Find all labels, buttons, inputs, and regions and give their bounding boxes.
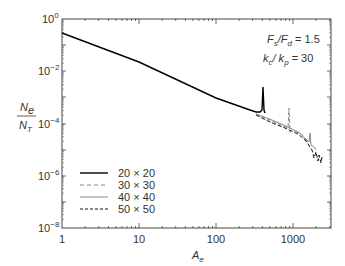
annotation-rate-ratio: kc/ kp = 30: [263, 52, 313, 67]
x-axis-label: Ae: [191, 249, 204, 264]
svg-text:NT: NT: [19, 119, 33, 134]
annotation-force-ratio: Fs/Fd = 1.5: [267, 33, 320, 48]
y-tick-label: 10−4: [38, 116, 60, 130]
y-tick-label: 100: [42, 11, 59, 25]
legend-label: 20 × 20: [118, 167, 155, 179]
x-tick-label: 10: [133, 233, 145, 245]
legend: 20 × 20 30 × 30 40 × 40 50 × 50: [80, 167, 155, 215]
y-axis-label: Ne NT: [17, 101, 36, 134]
y-tick-label: 10−6: [38, 168, 60, 182]
series-40x40: [256, 114, 316, 150]
y-tick-label: 10−8: [38, 220, 60, 234]
legend-label: 30 × 30: [118, 179, 155, 191]
y-tick-label: 10−2: [38, 63, 60, 77]
chart: 1 10 100 1000 100 10−2 10−4 10−6 10−8 Ne…: [0, 0, 345, 266]
series-50x50: [256, 115, 322, 163]
svg-text:Ne: Ne: [20, 101, 34, 116]
y-tick-labels: 100 10−2 10−4 10−6 10−8: [38, 11, 60, 234]
x-tick-label: 1000: [281, 233, 305, 245]
series-20x20: [62, 33, 265, 113]
legend-label: 50 × 50: [118, 203, 155, 215]
x-tick-label: 100: [207, 233, 225, 245]
legend-label: 40 × 40: [118, 191, 155, 203]
y-minor-ticks: [62, 20, 331, 219]
x-tick-label: 1: [59, 233, 65, 245]
y-ticks: [62, 45, 331, 202]
